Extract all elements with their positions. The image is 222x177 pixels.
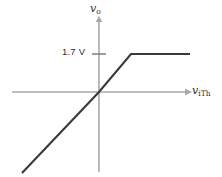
- transfer-characteristic-curve: [22, 54, 190, 173]
- y-axis-tick-label: 1.7 V: [62, 47, 85, 57]
- x-axis-arrowhead: [185, 88, 192, 95]
- y-axis-label: vo: [90, 3, 101, 14]
- x-axis-label: viTh: [192, 85, 211, 96]
- transfer-characteristic-figure: vo viTh 1.7 V: [0, 0, 222, 177]
- plot-canvas: [0, 0, 222, 177]
- y-axis-arrowhead: [96, 16, 103, 22]
- y-axis-label-subscript: o: [96, 7, 101, 16]
- x-axis-label-subscript: iTh: [198, 89, 211, 98]
